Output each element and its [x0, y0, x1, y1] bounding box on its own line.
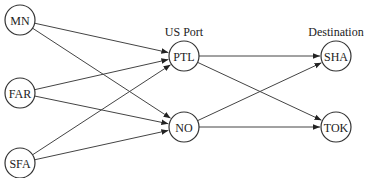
edge-sfa-to-no — [35, 130, 169, 159]
node-label: PTL — [173, 50, 194, 64]
network-diagram: MNFARSFAPTLNOSHATOK US Port Destination — [0, 0, 374, 178]
column-label-destination: Destination — [308, 25, 363, 39]
edge-mn-to-no — [33, 28, 171, 118]
column-label-us-port: US Port — [165, 25, 204, 39]
node-sfa: SFA — [5, 148, 35, 178]
edge-sfa-to-ptl — [33, 65, 171, 155]
node-ptl: PTL — [169, 41, 199, 71]
node-tok: TOK — [321, 112, 351, 142]
node-far: FAR — [5, 78, 35, 108]
node-label: FAR — [9, 87, 31, 101]
edge-mn-to-ptl — [35, 23, 169, 52]
node-no: NO — [169, 112, 199, 142]
node-label: NO — [175, 121, 193, 135]
node-label: SFA — [9, 157, 30, 171]
node-mn: MN — [5, 5, 35, 35]
node-label: SHA — [324, 50, 348, 64]
node-sha: SHA — [321, 41, 351, 71]
node-label: MN — [10, 14, 30, 28]
edge-far-to-ptl — [35, 60, 169, 90]
node-label: TOK — [324, 121, 349, 135]
